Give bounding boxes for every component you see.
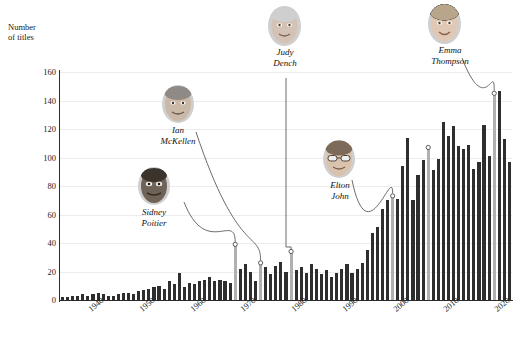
bar <box>335 273 338 300</box>
bar <box>223 281 226 300</box>
bar <box>234 246 237 300</box>
bar <box>386 200 389 300</box>
y-tick-label: 120 <box>4 124 56 134</box>
portrait-elton-john <box>323 140 355 178</box>
bar <box>508 162 511 300</box>
bar <box>330 277 333 300</box>
bar <box>411 200 414 300</box>
y-axis-line <box>59 70 60 302</box>
bar <box>295 270 298 300</box>
y-tick-label: 60 <box>4 210 56 220</box>
bar <box>442 122 445 300</box>
bar <box>320 274 323 300</box>
y-tick-label: 20 <box>4 267 56 277</box>
bar <box>477 162 480 300</box>
bar <box>218 280 221 300</box>
bar <box>452 126 455 300</box>
portrait-judy-dench <box>268 6 301 46</box>
bar <box>422 160 425 300</box>
annotation-label-elton-john: Elton John <box>300 180 380 201</box>
portrait-ian-mckellen <box>162 85 194 123</box>
bar <box>376 227 379 300</box>
bar <box>447 136 450 300</box>
bar <box>416 175 419 300</box>
bar <box>345 264 348 300</box>
bar <box>437 159 440 300</box>
bar <box>325 270 328 300</box>
bar <box>254 281 257 300</box>
bar <box>168 281 171 300</box>
bar <box>122 293 125 300</box>
annotation-label-judy-dench: Judy Dench <box>245 47 325 68</box>
bar <box>193 284 196 300</box>
bar <box>371 233 374 300</box>
bar <box>340 269 343 300</box>
bar <box>183 287 186 300</box>
bar <box>503 139 506 300</box>
bar <box>229 283 232 300</box>
x-axis-line <box>59 300 513 301</box>
gridline <box>60 72 512 73</box>
x-axis-ticks: 194019501960197019801990200020102020 <box>0 303 520 343</box>
bar <box>391 197 394 300</box>
y-tick-label: 100 <box>4 153 56 163</box>
bar <box>498 91 501 300</box>
annotation-label-sidney-poitier: Sidney Poitier <box>114 207 194 228</box>
y-axis-ticks: 020406080100120140160 <box>0 0 56 347</box>
portrait-emma-thompson <box>428 4 461 44</box>
bar <box>472 169 475 300</box>
bar <box>482 125 485 300</box>
bar <box>157 286 160 300</box>
bar <box>356 269 359 300</box>
bar <box>137 291 140 300</box>
bar <box>305 273 308 300</box>
bar <box>173 284 176 300</box>
bar <box>178 273 181 300</box>
bar <box>427 149 430 300</box>
bar <box>203 280 206 300</box>
bar <box>279 262 282 300</box>
y-tick-label: 40 <box>4 238 56 248</box>
bar <box>127 293 130 300</box>
bar <box>467 145 470 300</box>
bar <box>274 266 277 300</box>
bar <box>310 264 313 300</box>
bar <box>401 166 404 300</box>
y-tick-label: 80 <box>4 181 56 191</box>
bar <box>396 199 399 300</box>
bar <box>381 209 384 300</box>
y-tick-label: 140 <box>4 96 56 106</box>
bar <box>269 274 272 300</box>
annotation-label-emma-thompson: Emma Thompson <box>405 45 495 66</box>
bar <box>432 170 435 300</box>
bar <box>361 263 364 300</box>
bar <box>239 269 242 300</box>
chart-root: Number of titles 020406080100120140160 1… <box>0 0 520 347</box>
gridline <box>60 101 512 102</box>
bar <box>284 272 287 301</box>
y-tick-label: 160 <box>4 67 56 77</box>
bar <box>457 146 460 300</box>
bar <box>462 149 465 300</box>
bar <box>188 283 191 300</box>
bar <box>208 277 211 300</box>
bar <box>366 250 369 300</box>
bar <box>264 267 267 300</box>
plot-area <box>60 72 512 300</box>
bar <box>290 253 293 300</box>
bar <box>244 264 247 300</box>
bar <box>259 264 262 300</box>
bar <box>315 269 318 300</box>
bar <box>213 281 216 300</box>
bar <box>493 95 496 300</box>
bar <box>488 156 491 300</box>
bar <box>163 289 166 300</box>
bar <box>406 138 409 300</box>
portrait-sidney-poitier <box>138 167 170 205</box>
annotation-label-ian-mckellen: Ian McKellen <box>138 125 218 146</box>
